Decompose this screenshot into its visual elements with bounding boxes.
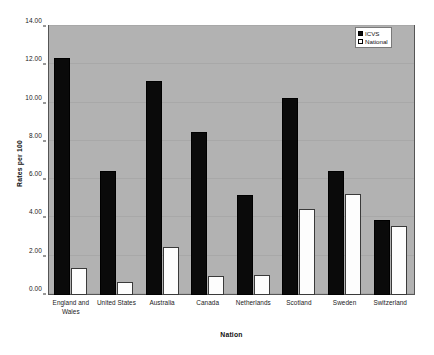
x-axis-label-line: Australia [139, 299, 185, 308]
legend-label: ICVS [365, 30, 379, 37]
y-axis-tick-mark [43, 294, 46, 295]
bar-group [139, 25, 185, 295]
bar-group [276, 25, 322, 295]
bars-layer [48, 25, 415, 295]
bar-icvs [146, 81, 162, 295]
bar-group [367, 25, 413, 295]
y-axis-tick-label: 14.00 [25, 17, 42, 24]
x-axis-label-line: Wales [48, 308, 94, 317]
y-axis-tick-label: 8.00 [29, 131, 42, 138]
y-axis-tick-mark [43, 179, 46, 180]
y-axis-tick-mark [43, 255, 46, 256]
legend-item: National [358, 38, 388, 45]
x-axis-label-line: England and [48, 299, 94, 308]
y-axis-tick-mark [43, 102, 46, 103]
x-axis-label-line: United States [94, 299, 140, 308]
x-axis-tick-label: United States [94, 299, 140, 308]
bar-national [71, 268, 87, 295]
x-axis-label-line: Netherlands [231, 299, 277, 308]
y-axis-title: Rates per 100 [16, 109, 23, 219]
bar-chart: 0.002.004.006.008.0010.0012.0014.00 Rate… [0, 0, 434, 355]
bar-icvs [328, 171, 344, 295]
y-axis-tick-label: 4.00 [29, 208, 42, 215]
bar-national [254, 275, 270, 295]
x-axis-tick-label: Canada [185, 299, 231, 308]
y-axis-tick-mark [43, 64, 46, 65]
bar-icvs [374, 220, 390, 295]
chart-legend: ICVSNational [355, 27, 392, 48]
x-axis-tick-label: Sweden [322, 299, 368, 308]
y-axis-tick-mark [43, 217, 46, 218]
bar-national [299, 209, 315, 295]
legend-label: National [365, 38, 388, 45]
bar-national [117, 282, 133, 295]
y-axis-tick-mark [43, 26, 46, 27]
bar-icvs [237, 195, 253, 295]
y-axis-tick-label: 2.00 [29, 246, 42, 253]
x-axis-label-line: Canada [185, 299, 231, 308]
bar-national [345, 194, 361, 295]
x-axis-tick-label: Australia [139, 299, 185, 308]
y-axis-tick-mark [43, 140, 46, 141]
y-axis-tick-label: 12.00 [25, 55, 42, 62]
y-axis-tick-label: 0.00 [29, 285, 42, 292]
x-axis-label-line: Switzerland [367, 299, 413, 308]
x-axis-title: Nation [48, 331, 415, 338]
x-axis-label-line: Scotland [276, 299, 322, 308]
legend-item: ICVS [358, 30, 388, 37]
bar-icvs [191, 132, 207, 295]
bar-national [163, 247, 179, 295]
legend-swatch-icvs-icon [358, 31, 363, 36]
x-axis-tick-label: Switzerland [367, 299, 413, 308]
y-axis-tick-label: 6.00 [29, 170, 42, 177]
x-axis-label-line: Sweden [322, 299, 368, 308]
x-axis-tick-label: Scotland [276, 299, 322, 308]
x-axis-tick-label: Netherlands [231, 299, 277, 308]
legend-swatch-national-icon [358, 39, 363, 44]
y-axis: 0.002.004.006.008.0010.0012.0014.00 [0, 25, 46, 295]
bar-group [94, 25, 140, 295]
bar-group [322, 25, 368, 295]
y-axis-tick-label: 10.00 [25, 93, 42, 100]
bar-icvs [100, 171, 116, 295]
bar-national [208, 276, 224, 295]
bar-national [391, 226, 407, 295]
bar-group [231, 25, 277, 295]
bar-icvs [54, 58, 70, 295]
x-axis-tick-label: England andWales [48, 299, 94, 316]
x-axis: England andWalesUnited StatesAustraliaCa… [48, 299, 415, 329]
bar-icvs [282, 98, 298, 295]
bar-group [185, 25, 231, 295]
bar-group [48, 25, 94, 295]
